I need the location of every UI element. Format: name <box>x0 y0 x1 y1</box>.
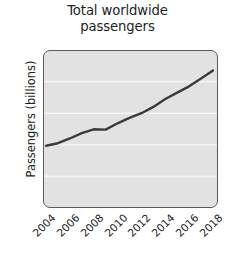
x-tick-label: 2012 <box>126 212 153 239</box>
x-tick-label: 2010 <box>102 212 129 239</box>
chart-figure: Total worldwide passengers Passengers (b… <box>0 0 227 260</box>
x-tick-label: 2016 <box>174 212 201 239</box>
chart-title: Total worldwide passengers <box>20 3 215 35</box>
y-axis-label: Passengers (billions) <box>24 39 38 199</box>
plot-canvas <box>43 50 218 208</box>
x-tick-label: 2006 <box>55 212 82 239</box>
x-tick-label: 2018 <box>198 212 225 239</box>
plot-area <box>43 50 218 208</box>
x-tick-label: 2004 <box>31 212 58 239</box>
gridlines <box>44 82 217 177</box>
x-tick-label: 2014 <box>150 212 177 239</box>
x-tick-label: 2008 <box>79 212 106 239</box>
